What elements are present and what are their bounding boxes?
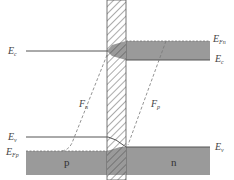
n-conduction-band-fill: [126, 41, 210, 60]
label-left-efp: EFp: [5, 146, 19, 158]
label-fp: Fp: [150, 98, 160, 110]
label-right-efn: EFn: [212, 33, 226, 45]
label-n-region: n: [171, 156, 177, 168]
label-p-region: p: [64, 156, 70, 168]
label-fn: Fn: [78, 98, 88, 110]
n-region-fill: [126, 147, 210, 175]
label-right-ec: Ec: [214, 53, 224, 65]
label-left-ec: Ec: [7, 45, 17, 57]
label-left-ev: Ev: [7, 131, 17, 143]
barrier-valence-wedge: [107, 147, 126, 175]
label-right-ev: Ev: [214, 141, 224, 153]
band-diagram: Ec Ev EFp EFn Ec Ev Fn Fp p n: [0, 0, 234, 180]
